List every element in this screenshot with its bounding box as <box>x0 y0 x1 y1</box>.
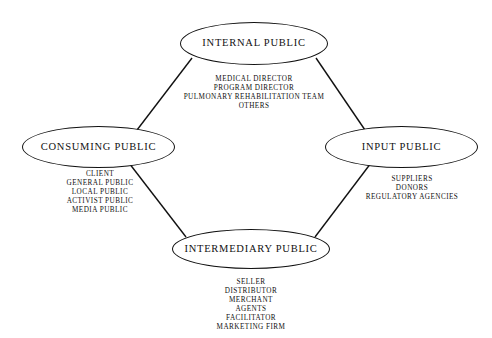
node-internal-public[interactable]: INTERNAL PUBLIC <box>180 22 328 65</box>
list-item: OTHERS <box>174 102 334 111</box>
list-item: MEDIA PUBLIC <box>38 206 162 215</box>
list-item: MEDICAL DIRECTOR <box>174 75 334 84</box>
node-consuming-public-label: CONSUMING PUBLIC <box>41 142 157 153</box>
item-list-consuming-public: CLIENT GENERAL PUBLIC LOCAL PUBLIC ACTIV… <box>38 170 162 215</box>
list-item: MARKETING FIRM <box>189 323 313 332</box>
list-item: SELLER <box>189 278 313 287</box>
node-input-public[interactable]: INPUT PUBLIC <box>325 126 478 168</box>
list-item: PROGRAM DIRECTOR <box>174 84 334 93</box>
list-item: SUPPLIERS <box>350 175 474 184</box>
list-item: AGENTS <box>189 305 313 314</box>
list-item: LOCAL PUBLIC <box>38 188 162 197</box>
node-input-public-label: INPUT PUBLIC <box>362 142 442 153</box>
diagram-canvas: INTERNAL PUBLIC CONSUMING PUBLIC INPUT P… <box>0 0 492 338</box>
list-item: DONORS <box>350 184 474 193</box>
item-list-intermediary-public: SELLER DISTRIBUTOR MERCHANT AGENTS FACIL… <box>189 278 313 332</box>
list-item: PULMONARY REHABILITATION TEAM <box>174 93 334 102</box>
list-item: DISTRIBUTOR <box>189 287 313 296</box>
list-item: REGULATORY AGENCIES <box>350 193 474 202</box>
list-item: CLIENT <box>38 170 162 179</box>
list-item: FACILITATOR <box>189 314 313 323</box>
node-consuming-public[interactable]: CONSUMING PUBLIC <box>22 126 175 168</box>
node-internal-public-label: INTERNAL PUBLIC <box>202 38 305 49</box>
list-item: ACTIVIST PUBLIC <box>38 197 162 206</box>
node-intermediary-public[interactable]: INTERMEDIARY PUBLIC <box>172 229 330 269</box>
item-list-input-public: SUPPLIERS DONORS REGULATORY AGENCIES <box>350 175 474 202</box>
node-intermediary-public-label: INTERMEDIARY PUBLIC <box>184 244 317 255</box>
item-list-internal-public: MEDICAL DIRECTOR PROGRAM DIRECTOR PULMON… <box>174 75 334 111</box>
list-item: GENERAL PUBLIC <box>38 179 162 188</box>
list-item: MERCHANT <box>189 296 313 305</box>
